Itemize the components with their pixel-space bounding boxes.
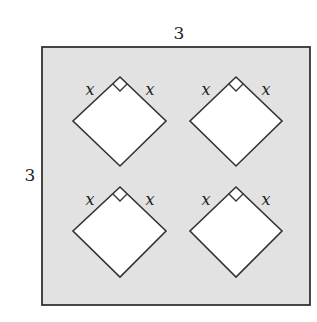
side-label-right: x — [145, 80, 154, 99]
side-label-left: x — [201, 80, 210, 99]
side-label-left: x — [201, 190, 210, 209]
top-side-label: 3 — [174, 23, 185, 43]
side-label-right: x — [261, 190, 270, 209]
side-label-left: x — [85, 80, 94, 99]
side-label-right: x — [261, 80, 270, 99]
side-label-right: x — [145, 190, 154, 209]
diagram-figure: 3 3 x x x x x x x x — [0, 0, 317, 322]
side-label-left: x — [85, 190, 94, 209]
left-side-label: 3 — [25, 165, 36, 185]
